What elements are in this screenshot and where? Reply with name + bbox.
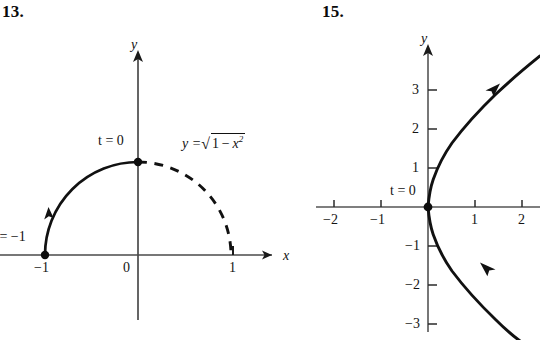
tick-label-x-3-15: 2 [518, 213, 525, 227]
tick-label-x-1-15: −1 [370, 213, 385, 227]
annotation-t-start-13: t = −1 [0, 230, 26, 244]
equation-radicand-a-13: 1 [212, 136, 219, 151]
point-t-zero [134, 158, 142, 166]
y-axis-13 [133, 50, 143, 320]
tick-label-y-5-15: −3 [405, 317, 420, 331]
figure-13: 13. x y −1 0 1 t = −1 t = 0 y =√1 − x2 [0, 0, 300, 340]
y-axis-label-15: y [421, 32, 427, 46]
tick-label-y-2-15: 1 [412, 161, 419, 175]
tick-label-x-pos1-13: 1 [229, 261, 236, 275]
tick-label-x-0-15: −2 [323, 213, 338, 227]
curve-dashed-13 [138, 162, 231, 255]
direction-arrow-lower-15 [480, 263, 496, 277]
tick-label-x-2-15: 1 [471, 213, 478, 227]
tick-label-y-1-15: 2 [412, 122, 419, 136]
curve-upper-branch-15 [428, 56, 540, 207]
x-axis-13 [0, 251, 272, 260]
figure-15-plot [300, 0, 540, 340]
y-axis-label-13: y [131, 38, 137, 52]
equation-exponent-13: 2 [239, 134, 244, 144]
tick-label-y-0-15: 3 [412, 83, 419, 97]
x-axis-label-13: x [283, 249, 289, 263]
equation-lhs-13: y = [182, 136, 201, 151]
annotation-equation-13: y =√1 − x2 [182, 133, 245, 152]
point-t-minus-1 [41, 251, 49, 259]
annotation-t-zero-15: t = 0 [390, 184, 416, 198]
tick-label-y-3-15: −1 [405, 239, 420, 253]
sqrt-icon: √ [201, 136, 210, 152]
tick-label-y-4-15: −2 [405, 278, 420, 292]
annotation-t-zero-13: t = 0 [98, 134, 124, 148]
direction-arrow-upper-15 [486, 84, 501, 97]
equation-minus-13: − [222, 136, 230, 151]
equation-radical-13: √1 − x2 [201, 133, 245, 152]
point-vertex-t-zero-15 [424, 203, 433, 212]
figure-15: 15. [300, 0, 540, 340]
curve-solid-13 [45, 162, 138, 255]
figure-13-plot [0, 0, 300, 340]
tick-label-x-neg1-13: −1 [34, 261, 49, 275]
tick-label-x-origin-13: 0 [123, 261, 130, 275]
